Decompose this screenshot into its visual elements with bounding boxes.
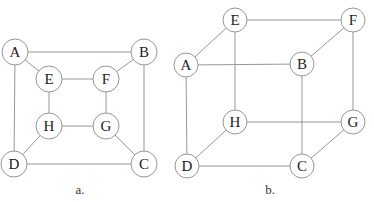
node-label: C xyxy=(139,156,149,172)
edge-a-d xyxy=(14,52,15,164)
node-label: H xyxy=(230,114,241,130)
node-a: A xyxy=(174,53,198,77)
node-label: D xyxy=(9,156,20,172)
cube-graph-diagrams: ABEFHGDCa. EFABHGDCb. xyxy=(0,0,374,202)
node-d: D xyxy=(1,151,27,177)
node-f: F xyxy=(93,66,119,92)
edge-a-b xyxy=(186,64,302,65)
node-h: H xyxy=(36,113,62,139)
node-label: G xyxy=(348,114,359,130)
node-label: G xyxy=(101,118,112,134)
node-g: G xyxy=(341,110,365,134)
node-label: C xyxy=(297,158,307,174)
node-g: G xyxy=(93,113,119,139)
caption-b: b. xyxy=(265,182,275,197)
node-e: E xyxy=(223,8,247,32)
node-e: E xyxy=(36,66,62,92)
node-label: D xyxy=(182,158,193,174)
node-label: E xyxy=(44,71,53,87)
node-label: A xyxy=(10,44,21,60)
node-label: E xyxy=(230,12,239,28)
node-c: C xyxy=(131,151,157,177)
node-c: C xyxy=(290,154,314,178)
node-a: A xyxy=(2,39,28,65)
node-d: D xyxy=(175,154,199,178)
node-b: B xyxy=(290,52,314,76)
node-label: B xyxy=(297,56,307,72)
node-label: H xyxy=(44,118,55,134)
edge-a-d xyxy=(186,65,187,166)
node-f: F xyxy=(341,8,365,32)
node-label: F xyxy=(349,12,357,28)
node-label: F xyxy=(102,71,110,87)
diagram-b-3d-cube: EFABHGDCb. xyxy=(174,8,365,197)
caption-a: a. xyxy=(75,182,84,197)
node-h: H xyxy=(223,110,247,134)
node-label: A xyxy=(181,57,192,73)
diagram-a-planar-cube: ABEFHGDCa. xyxy=(1,39,157,197)
node-b: B xyxy=(131,39,157,65)
node-label: B xyxy=(139,44,149,60)
